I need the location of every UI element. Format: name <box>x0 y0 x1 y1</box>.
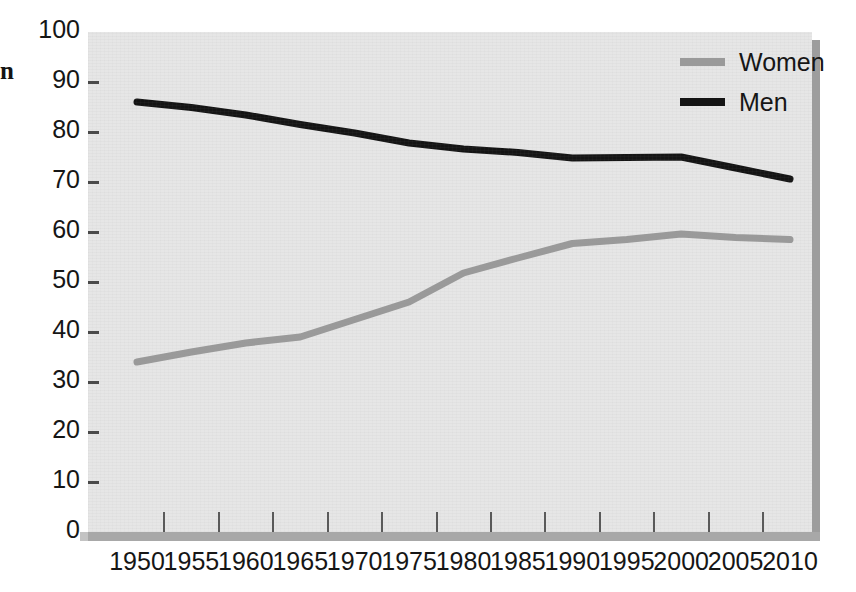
series-line-women <box>137 234 790 362</box>
y-axis-tick-mark <box>88 131 99 134</box>
x-axis-tick-mark <box>599 512 601 532</box>
y-axis-tick-mark <box>88 431 99 434</box>
y-axis-tick-label: 80 <box>22 115 80 144</box>
y-axis-tick-mark <box>88 81 99 84</box>
y-axis-tick-label: 60 <box>22 215 80 244</box>
y-axis-tick-mark <box>88 331 99 334</box>
x-axis-tick-mark <box>381 512 383 532</box>
legend-item-label: Men <box>739 88 788 117</box>
y-axis-tick-label: 30 <box>22 365 80 394</box>
x-axis-tick-mark <box>762 512 764 532</box>
x-axis-tick-mark <box>272 512 274 532</box>
x-axis-tick-label: 2010 <box>750 547 830 576</box>
x-axis-tick-mark <box>327 512 329 532</box>
x-axis-tick-mark <box>490 512 492 532</box>
y-axis-tick-mark <box>88 381 99 384</box>
legend-item: Men <box>680 82 850 122</box>
x-axis-tick-mark <box>653 512 655 532</box>
y-axis-tick-mark <box>88 231 99 234</box>
y-axis-tick-label: 70 <box>22 165 80 194</box>
chart-figure: n 1009080706050403020100 195019551960196… <box>0 0 856 592</box>
legend-item-label: Women <box>739 48 825 77</box>
legend-line-swatch <box>680 98 725 106</box>
y-axis-labels: 1009080706050403020100 <box>8 0 80 592</box>
y-axis-tick-label: 90 <box>22 65 80 94</box>
y-axis-tick-mark <box>88 281 99 284</box>
y-axis-tick-label: 50 <box>22 265 80 294</box>
y-axis-tick-mark <box>88 181 99 184</box>
axis-baseline <box>88 532 820 541</box>
x-axis-tick-mark <box>436 512 438 532</box>
legend-line-swatch <box>680 58 725 66</box>
y-axis-tick-mark <box>88 481 99 484</box>
x-axis-tick-mark <box>544 512 546 532</box>
x-axis-tick-mark <box>218 512 220 532</box>
y-axis-tick-label: 0 <box>22 515 80 544</box>
y-axis-tick-label: 20 <box>22 415 80 444</box>
legend-item: Women <box>680 42 850 82</box>
y-axis-tick-label: 10 <box>22 465 80 494</box>
x-axis-tick-mark <box>163 512 165 532</box>
chart-legend: WomenMen <box>680 42 850 122</box>
y-axis-tick-label: 40 <box>22 315 80 344</box>
x-axis-tick-mark <box>708 512 710 532</box>
y-axis-tick-label: 100 <box>22 15 80 44</box>
